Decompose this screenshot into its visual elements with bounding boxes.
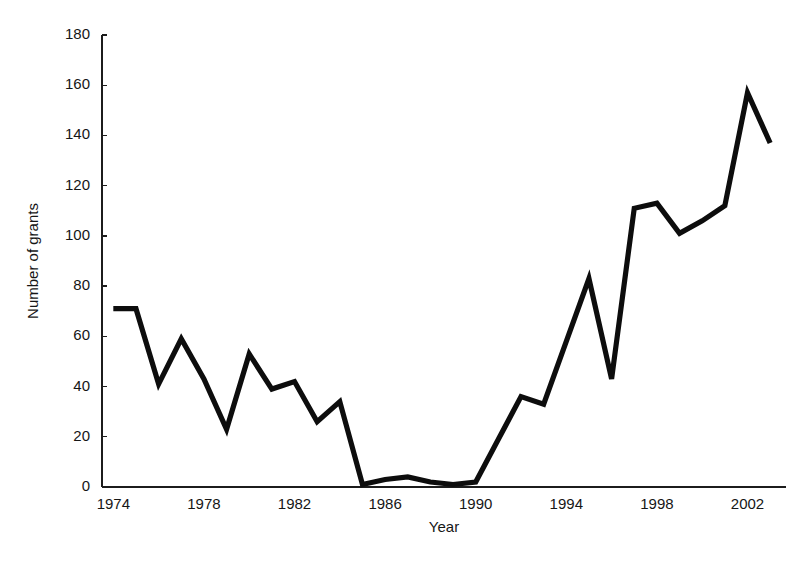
x-tick-label: 1994 bbox=[550, 495, 583, 512]
x-tick-label: 1978 bbox=[187, 495, 220, 512]
data-series-line bbox=[113, 93, 770, 485]
y-tick-label: 120 bbox=[65, 176, 90, 193]
y-tick-label: 40 bbox=[73, 377, 90, 394]
y-tick-label: 80 bbox=[73, 276, 90, 293]
x-axis-tick-labels: 19741978198219861990199419982002 bbox=[97, 495, 765, 512]
y-tick-label: 20 bbox=[73, 427, 90, 444]
x-tick-label: 1982 bbox=[278, 495, 311, 512]
x-axis-title: Year bbox=[429, 518, 459, 535]
x-tick-label: 1986 bbox=[368, 495, 401, 512]
x-tick-label: 1990 bbox=[459, 495, 492, 512]
y-axis-tick-labels: 020406080100120140160180 bbox=[65, 25, 90, 494]
y-tick-label: 60 bbox=[73, 326, 90, 343]
y-tick-label: 100 bbox=[65, 226, 90, 243]
x-tick-label: 1974 bbox=[97, 495, 130, 512]
x-tick-label: 2002 bbox=[731, 495, 764, 512]
y-axis-title: Number of grants bbox=[24, 203, 41, 319]
chart-canvas: 020406080100120140160180 197419781982198… bbox=[0, 0, 801, 564]
x-tick-label: 1998 bbox=[640, 495, 673, 512]
line-chart-figure: 020406080100120140160180 197419781982198… bbox=[0, 0, 801, 564]
y-tick-label: 160 bbox=[65, 75, 90, 92]
y-tick-label: 0 bbox=[82, 477, 90, 494]
y-tick-label: 180 bbox=[65, 25, 90, 42]
y-tick-label: 140 bbox=[65, 125, 90, 142]
